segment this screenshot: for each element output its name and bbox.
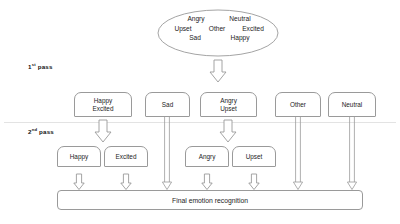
node-angry-upset[interactable]: Angry Upset bbox=[200, 92, 257, 117]
node-final-emotion-recognition[interactable]: Final emotion recognition bbox=[57, 190, 363, 210]
node-happy-line-1: Happy bbox=[70, 153, 88, 161]
node-upset-line-1: Upset bbox=[246, 153, 263, 161]
node-angry-line-1: Angry bbox=[199, 153, 216, 161]
ellipse-label-sad: Sad bbox=[174, 33, 216, 43]
connector-neutral-to-final bbox=[347, 117, 356, 190]
connector-other-to-final bbox=[293, 117, 302, 190]
second-pass-label: 2nd pass bbox=[28, 127, 54, 135]
node-excited-line-1: Excited bbox=[116, 153, 137, 161]
final-emotion-recognition-label: Final emotion recognition bbox=[172, 197, 248, 204]
node-happy[interactable]: Happy bbox=[57, 146, 101, 167]
ellipse-label-angry: Angry bbox=[175, 14, 217, 24]
node-excited[interactable]: Excited bbox=[104, 146, 148, 167]
first-pass-text: pass bbox=[36, 63, 53, 70]
first-pass-label: 1st pass bbox=[28, 62, 53, 70]
arrow-ellipse-to-firstpass bbox=[210, 60, 226, 82]
node-neutral[interactable]: Neutral bbox=[328, 92, 376, 117]
node-happy-excited[interactable]: Happy Excited bbox=[74, 92, 132, 117]
ellipse-label-excited: Excited bbox=[234, 24, 272, 34]
second-pass-text: pass bbox=[37, 128, 54, 135]
node-other[interactable]: Other bbox=[275, 92, 321, 117]
connector-sad-to-final bbox=[162, 117, 171, 190]
ellipse-label-upset: Upset bbox=[166, 24, 200, 34]
arrow-happyexcited-to-split bbox=[95, 120, 111, 142]
arrow-upset-to-final bbox=[249, 174, 259, 190]
node-sad[interactable]: Sad bbox=[145, 92, 190, 117]
node-neutral-line-1: Neutral bbox=[342, 101, 363, 109]
arrow-angry-to-final bbox=[202, 174, 212, 190]
node-angry-upset-line-1: Angry bbox=[220, 97, 237, 105]
arrow-angryupset-to-split bbox=[220, 120, 236, 142]
node-sad-line-1: Sad bbox=[162, 101, 173, 109]
arrow-happy-to-final bbox=[74, 174, 84, 190]
node-angry[interactable]: Angry bbox=[185, 146, 229, 167]
ellipse-label-other: Other bbox=[200, 24, 234, 34]
all-emotions-label-group: Angry Neutral Upset Other Excited Sad Ha… bbox=[164, 14, 274, 43]
diagram-canvas: Angry Neutral Upset Other Excited Sad Ha… bbox=[0, 0, 400, 224]
node-upset[interactable]: Upset bbox=[232, 146, 276, 167]
node-angry-upset-line-2: Upset bbox=[220, 105, 237, 113]
ellipse-label-neutral: Neutral bbox=[217, 14, 263, 24]
node-other-line-1: Other bbox=[290, 101, 306, 109]
node-happy-excited-line-2: Excited bbox=[93, 105, 114, 113]
arrow-excited-to-final bbox=[121, 174, 131, 190]
ellipse-label-happy: Happy bbox=[216, 33, 264, 43]
node-happy-excited-line-1: Happy bbox=[94, 97, 112, 105]
